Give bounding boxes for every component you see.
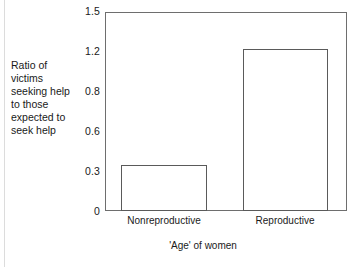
bar-chart-figure: Ratio of victims seeking help to those e… [0, 0, 358, 267]
bar-nonreproductive [121, 165, 207, 211]
x-axis-tick-label-nonreproductive: Nonreproductive [127, 215, 200, 226]
x-axis-tick-label-reproductive: Reproductive [256, 215, 315, 226]
page-margin-rule [4, 0, 5, 267]
y-axis-tick-label-0.8: 0.8 [74, 85, 100, 97]
bar-reproductive [243, 49, 328, 211]
y-axis-tick-label-0: 0 [74, 205, 100, 217]
y-axis-tick-label-1.2: 1.2 [74, 45, 100, 57]
y-axis-tick-label-0.6: 0.6 [74, 125, 100, 137]
y-axis-tick-label-1.5: 1.5 [74, 5, 100, 17]
x-axis-title-text: 'Age' of women [121, 240, 237, 251]
x-axis-title: 'Age' of women [0, 240, 358, 251]
plot-area [105, 12, 347, 211]
y-axis-tick-label-0.3: 0.3 [74, 165, 100, 177]
